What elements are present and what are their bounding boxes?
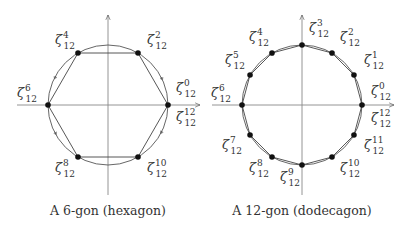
vertex-label: ζ1212 bbox=[371, 108, 391, 129]
vertex-label: ζ412 bbox=[55, 30, 75, 51]
vertex-dot bbox=[299, 162, 305, 168]
vertex-label: ζ1012 bbox=[147, 158, 167, 179]
vertex-dot bbox=[247, 132, 253, 138]
dodecagon-diagram: ζ012ζ1212ζ112ζ212ζ312ζ412ζ512ζ612ζ712ζ81… bbox=[211, 15, 394, 218]
vertex-dot bbox=[351, 132, 357, 138]
vertex-label: ζ1012 bbox=[340, 158, 360, 179]
vertex-dot bbox=[269, 50, 275, 56]
vertex-label: ζ012 bbox=[176, 78, 196, 99]
vertex-label: ζ412 bbox=[249, 27, 269, 48]
vertex-dot bbox=[239, 102, 245, 108]
vertex-dot bbox=[359, 102, 365, 108]
vertex-label: ζ212 bbox=[340, 27, 360, 48]
vertex-label: ζ612 bbox=[17, 83, 37, 104]
roots-of-unity-figure: ζ012ζ1212ζ212ζ412ζ612ζ812ζ1012 A 6-gon (… bbox=[0, 0, 409, 225]
vertex-label: ζ012 bbox=[371, 81, 391, 102]
vertex-label: ζ712 bbox=[222, 135, 242, 156]
vertex-label: ζ812 bbox=[55, 158, 75, 179]
vertex-dot bbox=[247, 72, 253, 78]
vertex-dot bbox=[329, 50, 335, 56]
vertex-dot bbox=[299, 42, 305, 48]
vertex-label: ζ912 bbox=[280, 167, 300, 188]
vertex-label: ζ812 bbox=[249, 158, 269, 179]
vertex-label: ζ312 bbox=[309, 18, 329, 39]
vertex-label: ζ612 bbox=[211, 83, 231, 104]
vertex-dot bbox=[329, 154, 335, 160]
hexagon-diagram: ζ012ζ1212ζ212ζ412ζ612ζ812ζ1012 A 6-gon (… bbox=[17, 15, 200, 218]
hexagon-caption: A 6-gon (hexagon) bbox=[49, 203, 166, 218]
vertex-label: ζ112 bbox=[364, 50, 384, 71]
vertex-label: ζ1112 bbox=[364, 135, 384, 156]
vertex-label: ζ512 bbox=[225, 50, 245, 71]
vertex-label: ζ1212 bbox=[176, 107, 196, 128]
vertex-dot bbox=[269, 154, 275, 160]
dodecagon-caption: A 12-gon (dodecagon) bbox=[231, 203, 371, 218]
vertex-label: ζ212 bbox=[147, 30, 167, 51]
vertex-dot bbox=[351, 72, 357, 78]
